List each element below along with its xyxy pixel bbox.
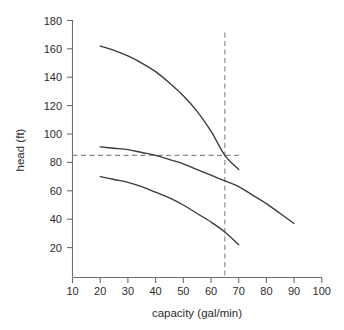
data-curves: [100, 46, 294, 245]
x-tick-label-40: 40: [149, 285, 161, 297]
middle-curve: [100, 147, 294, 224]
lower-curve: [100, 177, 239, 245]
y-tick-label-60: 60: [50, 185, 62, 197]
chart-canvas: 180 160 140 120 100 80 60 40 20: [0, 0, 344, 330]
pump-curve-chart: 180 160 140 120 100 80 60 40 20: [0, 0, 344, 330]
y-axis: 180 160 140 120 100 80 60 40 20: [44, 15, 73, 278]
x-tick-label-90: 90: [288, 285, 300, 297]
y-tick-label-20: 20: [50, 242, 62, 254]
x-tick-label-20: 20: [94, 285, 106, 297]
x-tick-labels: 10 20 30 40 50 60 70 80 90 100: [66, 285, 331, 297]
x-tick-marks: [73, 278, 322, 284]
upper-curve: [100, 46, 239, 169]
x-tick-label-30: 30: [122, 285, 134, 297]
y-tick-label-100: 100: [44, 128, 62, 140]
y-tick-label-140: 140: [44, 71, 62, 83]
y-axis-title: head (ft): [14, 128, 26, 171]
x-tick-label-10: 10: [66, 285, 78, 297]
x-tick-label-50: 50: [177, 285, 189, 297]
x-tick-label-70: 70: [233, 285, 245, 297]
x-tick-label-80: 80: [260, 285, 272, 297]
y-tick-label-160: 160: [44, 43, 62, 55]
y-tick-label-80: 80: [50, 156, 62, 168]
y-tick-label-120: 120: [44, 100, 62, 112]
y-tick-marks: [67, 21, 73, 248]
x-tick-label-60: 60: [205, 285, 217, 297]
x-axis-title: capacity (gal/min): [152, 307, 242, 319]
y-tick-label-180: 180: [44, 15, 62, 27]
y-tick-label-40: 40: [50, 213, 62, 225]
x-tick-label-100: 100: [313, 285, 331, 297]
plot-area: 180 160 140 120 100 80 60 40 20: [44, 15, 331, 298]
x-axis: 10 20 30 40 50 60 70 80 90 100: [66, 278, 331, 298]
y-tick-labels: 180 160 140 120 100 80 60 40 20: [44, 15, 62, 254]
